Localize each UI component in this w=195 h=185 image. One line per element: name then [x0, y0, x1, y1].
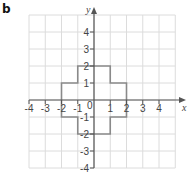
x-tick-label: -4	[25, 103, 34, 114]
x-axis-label: x	[181, 102, 187, 113]
x-tick-label: 1	[107, 103, 113, 114]
x-tick-label: 3	[140, 103, 146, 114]
y-tick-label: -2	[80, 129, 89, 140]
origin-label: 0	[87, 100, 93, 111]
y-tick-label: -4	[80, 163, 89, 174]
x-tick-label: 2	[124, 103, 130, 114]
y-tick-label: 4	[83, 27, 89, 38]
x-tick-label: -2	[57, 103, 66, 114]
x-tick-label: -3	[41, 103, 50, 114]
coordinate-grid: -4-3-2-112344321-1-2-3-4 x y 0	[0, 0, 195, 185]
y-axis-label: y	[85, 4, 91, 15]
y-tick-label: 1	[83, 78, 89, 89]
axes	[29, 7, 186, 168]
y-tick-label: 2	[83, 61, 89, 72]
y-tick-label: 3	[83, 44, 89, 55]
y-axis-arrow-icon	[91, 7, 97, 14]
x-tick-label: 4	[156, 103, 162, 114]
y-tick-label: -1	[80, 112, 89, 123]
grid-lines	[29, 15, 175, 168]
y-tick-label: -3	[80, 146, 89, 157]
